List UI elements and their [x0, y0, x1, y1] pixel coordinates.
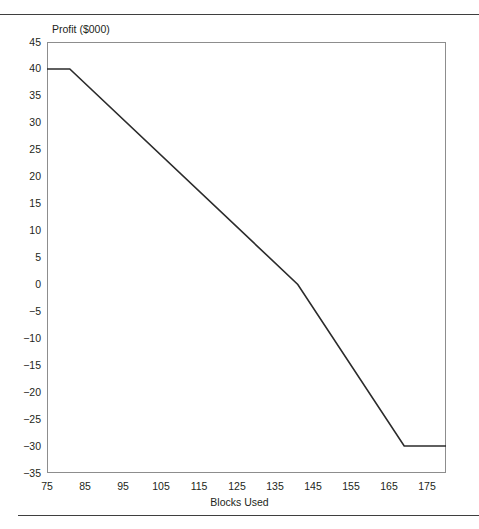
y-tick-label: −30 [10, 441, 41, 452]
y-tick-label: 25 [10, 144, 41, 155]
chart-figure: Profit ($000) 454035302520151050−5−10−15… [0, 0, 479, 529]
y-tick-label: −25 [10, 414, 41, 425]
x-tick-label: 145 [293, 481, 333, 492]
x-tick-label: 85 [65, 481, 105, 492]
x-tick-label: 105 [141, 481, 181, 492]
y-tick-label: −10 [10, 333, 41, 344]
y-tick-label: 45 [10, 37, 41, 48]
x-axis-title: Blocks Used [0, 496, 479, 509]
x-tick-label: 115 [179, 481, 219, 492]
x-tick-label: 95 [103, 481, 143, 492]
x-tick-label: 75 [27, 481, 67, 492]
y-tick-label: 10 [10, 225, 41, 236]
y-tick-label: 5 [10, 252, 41, 263]
y-axis-title: Profit ($000) [52, 23, 110, 36]
x-tick-label: 135 [255, 481, 295, 492]
x-tick-label: 175 [407, 481, 447, 492]
x-tick-label: 165 [369, 481, 409, 492]
y-tick-label: 15 [10, 198, 41, 209]
x-tick-label: 125 [217, 481, 257, 492]
y-tick-label: −20 [10, 387, 41, 398]
y-tick-label: −5 [10, 306, 41, 317]
y-tick-label: 20 [10, 171, 41, 182]
y-tick-label: 30 [10, 117, 41, 128]
profit-line-series [47, 69, 446, 446]
y-tick-label: 40 [10, 63, 41, 74]
series-layer [47, 42, 446, 473]
bottom-divider-rule [18, 515, 479, 516]
top-divider-rule [0, 14, 479, 15]
y-tick-label: 0 [10, 279, 41, 290]
y-tick-label: −15 [10, 360, 41, 371]
x-tick-label: 155 [331, 481, 371, 492]
y-tick-label: −35 [10, 468, 41, 479]
y-tick-label: 35 [10, 90, 41, 101]
